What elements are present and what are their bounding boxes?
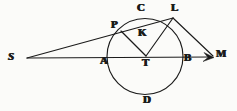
point-label-A: A	[100, 55, 108, 66]
point-label-K: K	[138, 27, 147, 38]
line-segment-L-M	[173, 18, 213, 56]
point-label-C: C	[137, 2, 145, 13]
point-label-S: S	[8, 51, 14, 62]
point-label-L: L	[171, 2, 178, 13]
point-label-P: P	[111, 19, 118, 30]
line-segment-S-L	[27, 18, 173, 58]
point-label-M: M	[216, 48, 226, 59]
geometry-svg	[0, 0, 237, 111]
point-label-B: B	[184, 52, 191, 63]
geometry-figure: S P C L K A T B M D	[0, 0, 237, 111]
point-label-D: D	[143, 94, 151, 105]
point-label-T: T	[142, 57, 149, 68]
